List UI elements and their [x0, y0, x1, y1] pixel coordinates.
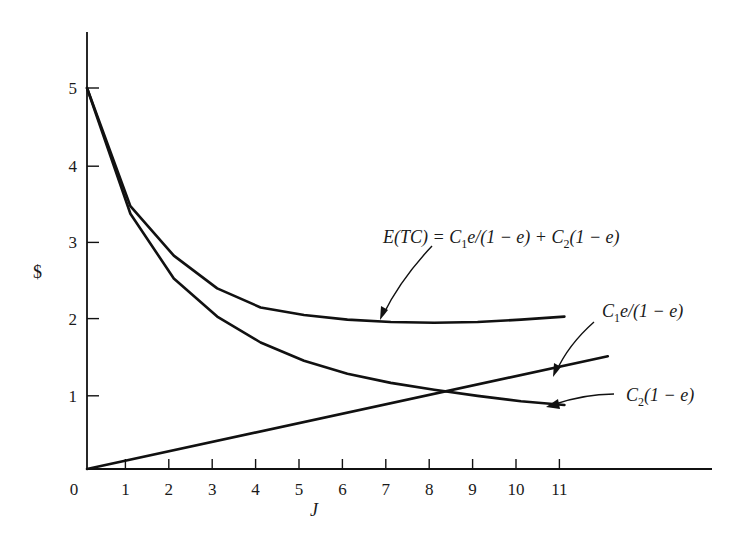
x-tick-label: 11	[551, 480, 567, 499]
total-cost-label: E(TC) = C1e/(1 − e) + C2(1 − e)	[382, 227, 620, 251]
y-tick-label: 2	[69, 310, 78, 329]
y-tick-label: 3	[69, 233, 78, 252]
x-tick-label: 8	[425, 480, 434, 499]
c1-cost-arrow-icon	[553, 322, 594, 377]
x-tick-label: 9	[468, 480, 477, 499]
x-tick-label: 2	[165, 480, 174, 499]
total-cost-curve	[87, 88, 564, 323]
c2-cost-label: C2(1 − e)	[626, 385, 694, 409]
x-tick-label: 10	[508, 480, 525, 499]
y-axis-label: $	[33, 262, 42, 282]
annotations: $ J E(TC) = C1e/(1 − e) + C2(1 − e) C1e/…	[33, 227, 694, 520]
total-cost-arrow-icon	[380, 246, 432, 320]
y-tick-label: 5	[69, 79, 78, 98]
cost-chart: 0123456789101112345 $ J E(TC) = C1e/(1 −…	[0, 0, 752, 539]
x-tick-label: 1	[121, 480, 130, 499]
x-tick-label: 3	[208, 480, 217, 499]
y-tick-label: 4	[69, 157, 78, 176]
ticks: 0123456789101112345	[69, 79, 568, 499]
x-tick-label: 6	[338, 480, 347, 499]
x-tick-label: 4	[251, 480, 260, 499]
axes	[87, 32, 712, 469]
x-tick-label: 5	[295, 480, 304, 499]
series	[87, 88, 608, 469]
x-tick-label: 0	[70, 480, 79, 499]
x-tick-label: 7	[382, 480, 391, 499]
x-axis-label: J	[310, 500, 319, 520]
c2-cost-arrow-icon	[546, 394, 614, 409]
y-tick-label: 1	[69, 387, 78, 406]
c1-cost-label: C1e/(1 − e)	[602, 301, 683, 325]
